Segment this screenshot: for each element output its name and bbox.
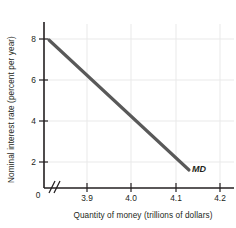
axis-break-icon [49,181,60,193]
money-demand-chart: 8 6 4 2 0 3.9 4.0 4.1 4.2 Nominal intere… [0,0,236,228]
md-curve-label: MD [192,164,206,174]
x-tick-label-4-1: 4.1 [163,193,189,203]
y-tick-label-6: 6 [22,75,36,85]
y-tick-label-4: 4 [22,116,36,126]
y-tick-label-2: 2 [22,157,36,167]
x-tick-label-3-9: 3.9 [74,193,100,203]
x-tick-label-4-2: 4.2 [207,193,233,203]
origin-label: 0 [32,190,44,200]
horizontal-gridlines [44,39,234,162]
x-tick-label-4-0: 4.0 [118,193,144,203]
x-axis-title: Quantity of money (trillions of dollars) [53,211,233,220]
md-curve-line [49,40,189,170]
y-tick-label-8: 8 [22,34,36,44]
y-axis-title: Nominal interest rate (percent per year) [7,30,16,190]
